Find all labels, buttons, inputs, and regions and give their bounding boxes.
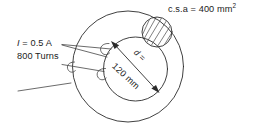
csa-label-text: c.s.a = 400 mm <box>168 4 232 14</box>
current-value: = 0.5 A <box>20 38 52 48</box>
current-label: I = 0.5 A <box>17 38 52 48</box>
csa-label-exponent: 2 <box>232 2 236 9</box>
csa-label: c.s.a = 400 mm2 <box>168 4 236 14</box>
turns-label: 800 Turns <box>17 51 59 61</box>
toroid-diagram-svg <box>0 0 253 133</box>
coil-winding-loops <box>67 43 109 79</box>
cross-section-circle <box>142 17 172 47</box>
figure-container: c.s.a = 400 mm2 I = 0.5 A 800 Turns d = … <box>0 0 253 133</box>
outer-core-circle <box>73 11 184 122</box>
